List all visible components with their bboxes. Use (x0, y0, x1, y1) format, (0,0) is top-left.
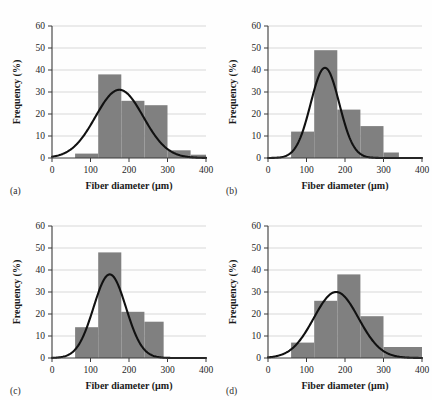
figure-four-panel-histograms: 01020304050600100200300400Fiber diameter… (0, 0, 432, 400)
y-tick-label: 30 (36, 287, 46, 297)
panel-label-b: (b) (226, 186, 237, 196)
y-tick-label: 30 (252, 287, 262, 297)
y-tick-label: 10 (252, 331, 262, 341)
histogram-bar (144, 105, 167, 158)
y-tick-label: 40 (36, 265, 46, 275)
x-tick-label: 200 (122, 365, 137, 375)
y-tick-label: 20 (252, 109, 262, 119)
x-tick-label: 400 (415, 365, 430, 375)
panel-d: 01020304050600100200300400Fiber diameter… (216, 200, 432, 400)
x-tick-label: 400 (415, 165, 430, 175)
x-axis-title: Fiber diameter (µm) (301, 180, 388, 192)
panel-a: 01020304050600100200300400Fiber diameter… (0, 0, 216, 200)
histogram-plot-a: 01020304050600100200300400Fiber diameter… (0, 0, 216, 200)
y-tick-label: 40 (252, 65, 262, 75)
x-tick-label: 100 (83, 365, 98, 375)
histogram-bar (121, 312, 144, 358)
x-tick-label: 0 (50, 165, 55, 175)
y-tick-label: 60 (252, 21, 262, 31)
x-tick-label: 100 (83, 165, 98, 175)
y-tick-label: 30 (36, 87, 46, 97)
x-tick-label: 0 (266, 165, 271, 175)
histogram-bar (291, 132, 314, 158)
x-axis-title: Fiber diameter (µm) (85, 380, 172, 392)
y-tick-label: 40 (252, 265, 262, 275)
x-axis-title: Fiber diameter (µm) (85, 180, 172, 192)
histogram-bar (75, 154, 98, 158)
x-tick-label: 400 (199, 165, 214, 175)
x-tick-label: 200 (122, 165, 137, 175)
y-tick-label: 10 (36, 131, 46, 141)
panel-b: 01020304050600100200300400Fiber diameter… (216, 0, 432, 200)
y-tick-label: 50 (36, 43, 46, 53)
histogram-bar (75, 327, 98, 358)
histogram-bar (314, 50, 337, 158)
x-tick-label: 300 (160, 365, 175, 375)
x-tick-label: 0 (50, 365, 55, 375)
y-axis-title: Frequency (%) (227, 260, 239, 325)
y-tick-label: 10 (252, 131, 262, 141)
y-tick-label: 40 (36, 65, 46, 75)
panel-label-a: (a) (10, 186, 21, 196)
histogram-bar (98, 74, 121, 158)
panel-label-c: (c) (10, 386, 21, 396)
panel-label-d: (d) (226, 386, 237, 396)
y-tick-label: 0 (256, 353, 261, 363)
x-tick-label: 300 (160, 165, 175, 175)
x-tick-label: 100 (299, 365, 314, 375)
x-tick-label: 400 (199, 365, 214, 375)
y-tick-label: 10 (36, 331, 46, 341)
y-tick-label: 50 (36, 243, 46, 253)
y-tick-label: 20 (252, 309, 262, 319)
histogram-bar (360, 316, 383, 358)
histogram-plot-c: 01020304050600100200300400Fiber diameter… (0, 200, 216, 400)
histogram-plot-d: 01020304050600100200300400Fiber diameter… (216, 200, 432, 400)
y-tick-label: 0 (256, 153, 261, 163)
y-tick-label: 60 (36, 21, 46, 31)
histogram-bar (121, 101, 144, 158)
y-tick-label: 0 (40, 153, 45, 163)
y-tick-label: 20 (36, 309, 46, 319)
y-tick-label: 60 (252, 221, 262, 231)
x-tick-label: 0 (266, 365, 271, 375)
y-tick-label: 50 (252, 43, 262, 53)
y-axis-title: Frequency (%) (11, 60, 23, 125)
y-tick-label: 50 (252, 243, 262, 253)
y-axis-title: Frequency (%) (227, 60, 239, 125)
x-tick-label: 300 (376, 165, 391, 175)
x-tick-label: 200 (338, 365, 353, 375)
x-axis-title: Fiber diameter (µm) (301, 380, 388, 392)
y-tick-label: 30 (252, 87, 262, 97)
histogram-plot-b: 01020304050600100200300400Fiber diameter… (216, 0, 432, 200)
y-tick-label: 60 (36, 221, 46, 231)
x-tick-label: 100 (299, 165, 314, 175)
histogram-bar (360, 126, 383, 158)
y-tick-label: 20 (36, 109, 46, 119)
y-axis-title: Frequency (%) (11, 260, 23, 325)
y-tick-label: 0 (40, 353, 45, 363)
panel-c: 01020304050600100200300400Fiber diameter… (0, 200, 216, 400)
x-tick-label: 300 (376, 365, 391, 375)
histogram-bar (98, 252, 121, 358)
x-tick-label: 200 (338, 165, 353, 175)
